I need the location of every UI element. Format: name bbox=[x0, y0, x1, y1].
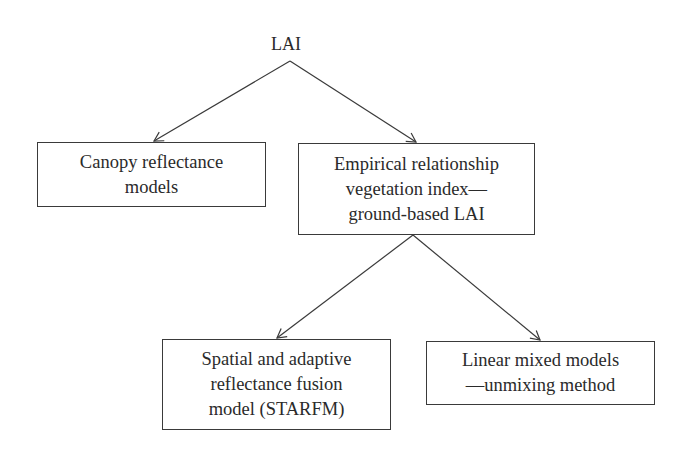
edge-lai-empirical bbox=[290, 61, 416, 142]
node-starfm: Spatial and adaptive reflectance fusion … bbox=[162, 339, 391, 430]
root-node-lai: LAI bbox=[256, 34, 316, 54]
node-label: Linear mixed models —unmixing method bbox=[462, 348, 619, 398]
node-linear-mixed-models: Linear mixed models —unmixing method bbox=[426, 341, 655, 405]
node-label: Empirical relationship vegetation index—… bbox=[334, 152, 499, 227]
node-label: Spatial and adaptive reflectance fusion … bbox=[201, 347, 351, 422]
node-canopy-reflectance-models: Canopy reflectance models bbox=[37, 142, 266, 207]
edge-empirical-starfm bbox=[277, 235, 413, 338]
node-empirical-relationship: Empirical relationship vegetation index—… bbox=[298, 143, 535, 235]
node-label: Canopy reflectance models bbox=[80, 150, 223, 200]
edge-lai-canopy bbox=[154, 61, 290, 141]
edge-empirical-linear bbox=[413, 235, 540, 340]
